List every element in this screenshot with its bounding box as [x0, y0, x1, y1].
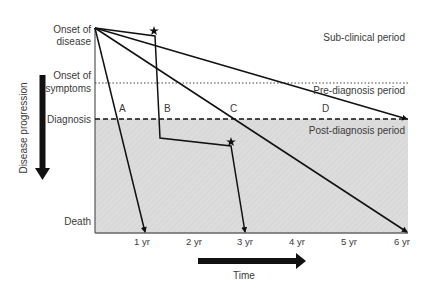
x-tick-4yr: 4 yr [289, 236, 305, 247]
path-d-label: D [322, 103, 329, 114]
label-postdiagnosis-period: Post-diagnosis period [309, 125, 405, 136]
progression-arrow-shaft [40, 75, 46, 170]
x-axis-title: Time [233, 270, 255, 281]
x-tick-2yr: 2 yr [186, 236, 202, 247]
star-icon [149, 26, 159, 35]
x-tick-6yr: 6 yr [394, 236, 410, 247]
label-onset-disease-2: disease [57, 36, 92, 47]
post-diagnosis-region [95, 119, 408, 233]
path-a-label: A [119, 103, 126, 114]
time-arrow-head-icon [296, 253, 306, 269]
label-death: Death [64, 216, 91, 227]
x-tick-3yr: 3 yr [237, 236, 253, 247]
label-onset-symptoms-1: Onset of [53, 70, 91, 81]
disease-progression-diagram: Onset of disease Onset of symptoms Diagn… [0, 0, 429, 294]
progression-arrow-head-icon [35, 168, 50, 180]
x-tick-1yr: 1 yr [134, 236, 150, 247]
time-arrow-shaft [198, 258, 298, 264]
label-subclinical-period: Sub-clinical period [323, 32, 405, 43]
path-c-label: C [230, 103, 237, 114]
x-tick-5yr: 5 yr [341, 236, 357, 247]
label-prediagnosis-period: Pre-diagnosis period [313, 85, 405, 96]
path-b-label: B [164, 103, 171, 114]
label-onset-symptoms-2: symptoms [45, 83, 91, 94]
label-onset-disease-1: Onset of [53, 24, 91, 35]
label-diagnosis: Diagnosis [47, 114, 91, 125]
y-axis-title: Disease progression [18, 82, 29, 173]
